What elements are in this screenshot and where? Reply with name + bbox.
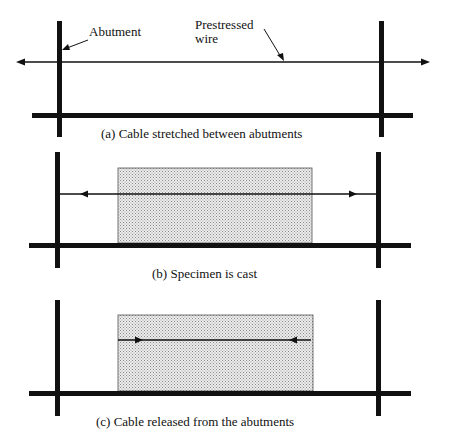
left-abutment-a — [57, 21, 62, 137]
specimen-c — [118, 315, 313, 391]
panel-c — [29, 300, 411, 416]
abutment-label: Abutment — [89, 25, 141, 39]
left-abutment-b — [55, 152, 60, 268]
right-abutment-a — [379, 21, 384, 137]
wire-leader — [264, 29, 281, 57]
wire-leader-arrow-icon — [277, 53, 284, 61]
base-b — [29, 243, 411, 248]
prestressed-wire-label-line2: wire — [195, 32, 218, 46]
abutment-leader-arrow-icon — [62, 44, 70, 50]
abutment-leader — [67, 40, 88, 48]
caption-c: (c) Cable released from the abutments — [96, 414, 294, 430]
caption-a: (a) Cable stretched between abutments — [101, 126, 302, 142]
prestressing-diagram — [0, 0, 449, 435]
right-abutment-b — [376, 152, 381, 268]
prestressed-wire-label-line1: Prestressed — [195, 18, 254, 32]
base-a — [32, 113, 413, 118]
right-abutment-c — [376, 300, 381, 416]
caption-b: (b) Specimen is cast — [152, 266, 257, 282]
panel-a — [16, 21, 430, 137]
arrowhead-left-icon — [80, 191, 88, 198]
specimen-b — [118, 168, 312, 243]
arrowhead-right-icon — [421, 59, 430, 66]
arrowhead-right-icon — [349, 191, 357, 198]
arrowhead-left-icon — [16, 59, 25, 66]
left-abutment-c — [55, 300, 60, 416]
base-c — [29, 391, 411, 396]
panel-b — [29, 152, 411, 268]
